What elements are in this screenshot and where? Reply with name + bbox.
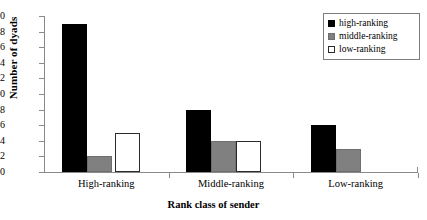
bar-high-ranking-middle-ranking: [186, 110, 211, 172]
y-axis-tick-label: 4: [0, 136, 5, 146]
y-axis-tick-label: 0: [0, 167, 5, 177]
y-axis-tick-label: 2: [0, 151, 5, 161]
y-axis-tick: [39, 32, 44, 33]
y-axis-tick-label: 12: [0, 73, 5, 83]
y-axis-tick-label: 10: [0, 89, 5, 99]
y-axis-tick-label: 6: [0, 120, 5, 130]
y-axis-tick: [39, 63, 44, 64]
x-axis-category-label: Middle-ranking: [169, 178, 294, 189]
x-axis-title: Rank class of sender: [0, 199, 427, 210]
legend-item-middle-ranking[interactable]: middle-ranking: [328, 30, 415, 43]
legend-label-high-ranking: high-ranking: [339, 19, 388, 29]
x-axis-category-label: High-ranking: [44, 178, 169, 189]
bar-middle-ranking-low-ranking: [336, 149, 361, 172]
y-axis-title: Number of dyads: [7, 0, 19, 123]
y-axis-tick: [39, 172, 44, 173]
y-axis-tick-label: 18: [0, 27, 5, 37]
bar-middle-ranking-middle-ranking: [211, 141, 236, 172]
y-axis-tick: [39, 156, 44, 157]
y-axis-tick: [39, 94, 44, 95]
y-axis-tick-label: 8: [0, 105, 5, 115]
x-axis-group-tick: [418, 173, 419, 178]
y-axis-tick: [39, 110, 44, 111]
bar-high-ranking-low-ranking: [311, 125, 336, 172]
y-axis-tick: [39, 141, 44, 142]
legend-label-middle-ranking: middle-ranking: [339, 32, 398, 42]
legend-label-low-ranking: low-ranking: [339, 45, 385, 55]
legend-swatch-low-ranking-icon: [328, 46, 335, 53]
legend-swatch-middle-ranking-icon: [328, 33, 335, 40]
y-axis-tick: [39, 78, 44, 79]
bar-low-ranking-high-ranking: [115, 133, 140, 172]
bar-chart: Number of dyads 02468101214161820 High-r…: [0, 0, 427, 220]
y-axis-tick-label: 16: [0, 42, 5, 52]
y-axis-tick: [39, 47, 44, 48]
x-axis-line: [44, 172, 418, 173]
y-axis-tick: [39, 125, 44, 126]
y-axis-tick-label: 20: [0, 11, 5, 21]
legend-item-low-ranking[interactable]: low-ranking: [328, 43, 415, 56]
bar-low-ranking-middle-ranking: [236, 141, 261, 172]
y-axis-tick-label: 14: [0, 58, 5, 68]
legend: high-ranking middle-ranking low-ranking: [323, 13, 420, 60]
legend-swatch-high-ranking-icon: [328, 20, 335, 27]
x-axis-category-label: Low-ranking: [293, 178, 418, 189]
bar-high-ranking-high-ranking: [62, 24, 87, 172]
legend-item-high-ranking[interactable]: high-ranking: [328, 17, 415, 30]
y-axis-tick: [39, 16, 44, 17]
bar-middle-ranking-high-ranking: [87, 156, 112, 172]
